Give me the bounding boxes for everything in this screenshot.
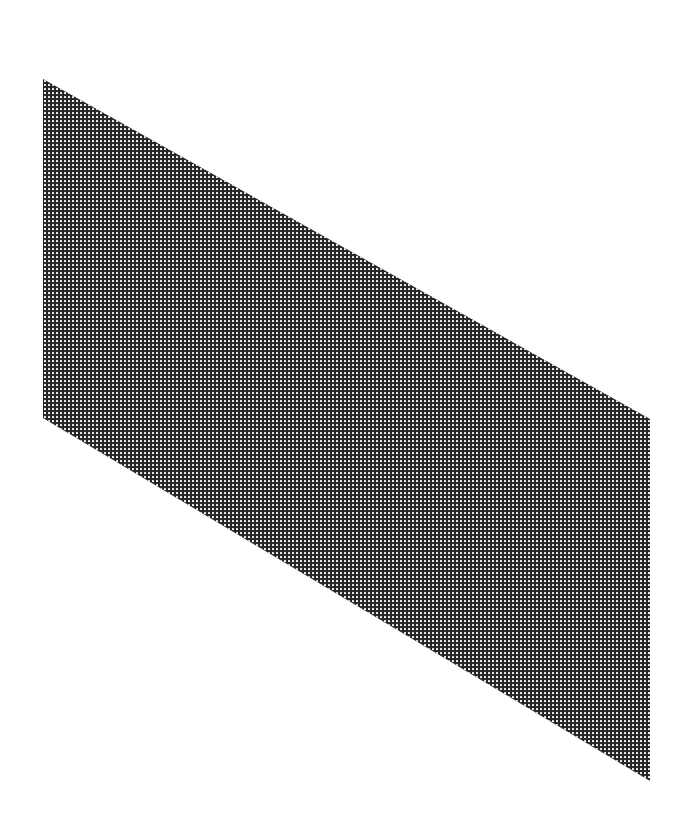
diagram-canvas <box>0 0 690 823</box>
sheared-grid-mesh <box>43 79 650 781</box>
